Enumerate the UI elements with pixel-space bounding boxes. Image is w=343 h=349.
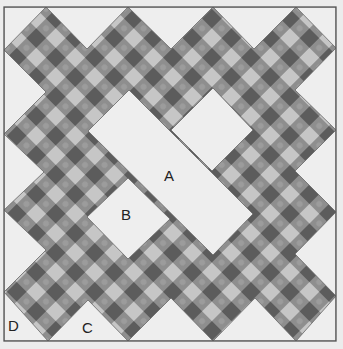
label-B: B <box>121 206 131 223</box>
quilt-block-diagram: A B C D <box>0 0 343 349</box>
label-A: A <box>164 167 174 184</box>
label-C: C <box>82 319 93 336</box>
label-D: D <box>8 317 19 334</box>
